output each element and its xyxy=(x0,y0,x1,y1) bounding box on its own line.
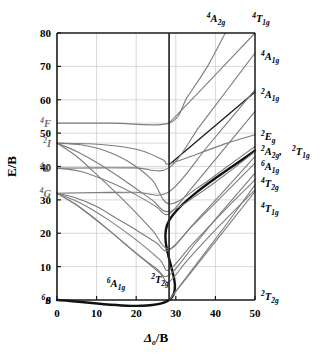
state-term-label: 2Eg xyxy=(260,129,276,145)
state-term-label: 2A2g, xyxy=(260,144,282,160)
state-term-label: 4T2g xyxy=(260,176,279,192)
right-state-labels: 4A1g2A1g2Eg2A2g,2T1g6A1g4T2g4T1g2T2g xyxy=(260,49,310,305)
y-tick-label: 70 xyxy=(40,60,52,72)
tanabe-sugano-svg: 0102030405060708001020304050 4F2I4D4G6S … xyxy=(0,0,326,363)
state-term-label: 2I xyxy=(42,136,52,149)
state-term-label: 4A1g xyxy=(260,49,280,65)
state-term-label: 2T2g xyxy=(260,289,279,305)
energy-curves xyxy=(57,33,255,306)
gridlines xyxy=(57,33,255,300)
energy-curve xyxy=(169,185,255,300)
state-term-label: 4T1g xyxy=(251,11,270,27)
state-term-label: 2T1g xyxy=(291,144,310,160)
state-term-label: 6A1g xyxy=(261,159,280,175)
x-tick-label: 40 xyxy=(210,307,222,319)
state-term-label: 6S xyxy=(41,293,51,306)
energy-curve xyxy=(57,90,255,196)
free-ion-term-lines xyxy=(57,123,169,193)
state-term-label: 4A2g xyxy=(206,11,226,27)
top-state-labels: 4A2g4T1g xyxy=(206,11,270,27)
x-tick-label: 10 xyxy=(91,307,103,319)
energy-curve xyxy=(57,111,255,214)
free-ion-term-labels: 4F2I4D4G6S xyxy=(39,116,52,306)
state-term-label: 6A1g xyxy=(107,276,126,292)
state-term-label: 4T1g xyxy=(260,201,279,217)
x-axis-title: Δo/B xyxy=(143,330,169,347)
y-tick-label: 10 xyxy=(40,261,52,273)
y-tick-label: 20 xyxy=(40,227,52,239)
x-tick-label: 20 xyxy=(131,307,143,319)
tanabe-sugano-figure: 0102030405060708001020304050 4F2I4D4G6S … xyxy=(0,0,326,363)
x-tick-label: 30 xyxy=(170,307,182,319)
x-tick-label: 0 xyxy=(54,307,60,319)
energy-curve xyxy=(57,135,255,164)
axis-titles: Δo/BE/B xyxy=(4,156,168,347)
y-axis-title: E/B xyxy=(4,156,19,177)
y-tick-label: 60 xyxy=(40,94,52,106)
y-tick-label: 80 xyxy=(40,27,52,39)
x-tick-label: 50 xyxy=(250,307,262,319)
state-term-label: 2T2g xyxy=(150,272,169,288)
energy-curve xyxy=(57,53,255,171)
state-term-label: 2A1g xyxy=(260,87,280,103)
energy-curve xyxy=(57,33,225,125)
inner-state-labels: 6A1g2T2g xyxy=(107,272,169,292)
